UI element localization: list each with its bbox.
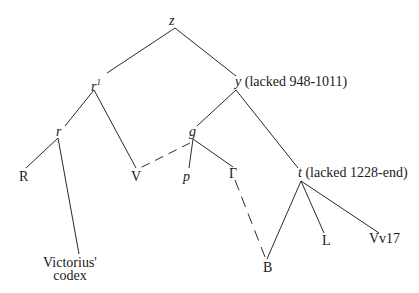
node-Vv17: Vv17	[369, 232, 400, 246]
edge-g-gamma	[193, 139, 233, 167]
node-t: t (lacked 1228-end)	[298, 166, 408, 180]
node-p: p	[183, 170, 190, 184]
node-victorius-codex: Victorius' codex	[37, 256, 103, 282]
node-R: R	[19, 170, 28, 184]
edge-r-victorius	[58, 138, 79, 254]
node-L: L	[322, 234, 331, 248]
node-r: r	[56, 125, 61, 139]
node-g: g	[189, 125, 196, 139]
note-t-lacuna: (lacked 1228-end)	[305, 165, 407, 180]
stemma-diagram: z r1 y (lacked 948-1011) r g R V p Γ t (…	[0, 0, 419, 293]
edge-rprime-r	[65, 90, 94, 126]
edge-y-t	[236, 90, 298, 168]
node-gamma: Γ	[229, 167, 237, 181]
edge-rprime-V	[94, 90, 136, 168]
node-B: B	[263, 261, 272, 275]
stemma-edges	[0, 0, 419, 293]
edge-y-g	[197, 90, 236, 126]
node-y: y (lacked 948-1011)	[235, 75, 347, 89]
edge-z-rprime	[107, 28, 175, 73]
edge-g-V-dashed	[140, 143, 190, 168]
edge-r-R	[26, 138, 58, 168]
edge-z-y	[175, 28, 236, 76]
edge-t-B	[267, 181, 301, 259]
node-z: z	[169, 14, 174, 28]
note-y-lacuna: (lacked 948-1011)	[245, 74, 348, 89]
node-V: V	[131, 170, 141, 184]
edge-gamma-B-dashed	[235, 180, 265, 257]
node-r-prime: r1	[91, 78, 101, 94]
